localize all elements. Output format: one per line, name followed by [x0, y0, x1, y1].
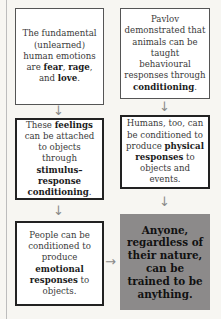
- text-run: .: [89, 187, 92, 197]
- emphasis-term: rage: [68, 62, 90, 72]
- emphasis-term: emotional responses: [30, 264, 84, 285]
- emphasis-term: feelings: [55, 120, 93, 130]
- box-emotional-responses: People can be conditioned to produce emo…: [15, 221, 104, 306]
- emphasis-term: stimulus–response conditioning: [28, 165, 89, 197]
- box-feelings-attached: These feelings can be attached to object…: [15, 118, 104, 200]
- box-text: The fundamental (unlearned) human emotio…: [19, 28, 100, 84]
- box-text: Humans, too, can be conditioned to produ…: [125, 118, 205, 185]
- arrow-down-icon: ↓: [159, 195, 170, 208]
- box-physical-responses: Humans, too, can be conditioned to produ…: [120, 115, 210, 189]
- box-text: Pavlov demonstrated that animals can be …: [124, 14, 206, 92]
- box-text: These feelings can be attached to object…: [20, 120, 99, 198]
- arrow-down-icon: ↓: [159, 100, 170, 113]
- text-run: .: [77, 73, 80, 83]
- text-run: People can be conditioned to produce: [28, 230, 91, 262]
- margin-rule-line: [6, 0, 7, 319]
- arrow-down-icon: ↓: [53, 204, 64, 217]
- arrow-down-icon: ↓: [53, 104, 64, 117]
- emphasis-term: love: [58, 73, 77, 83]
- box-conclusion: Anyone, regardless of their nature, can …: [120, 214, 210, 310]
- arrow-right-icon: →: [105, 255, 116, 268]
- emphasis-term: fear: [44, 62, 63, 72]
- text-run: These: [26, 120, 55, 130]
- box-text: People can be conditioned to produce emo…: [20, 230, 99, 297]
- box-pavlov: Pavlov demonstrated that animals can be …: [120, 8, 210, 99]
- conclusion-text: Anyone, regardless of their nature, can …: [123, 224, 207, 301]
- text-run: Pavlov demonstrated that animals can be …: [124, 14, 205, 80]
- emphasis-term: conditioning: [133, 82, 194, 92]
- box-fundamental-emotions: The fundamental (unlearned) human emotio…: [15, 8, 104, 105]
- text-run: can be attached to objects through: [25, 131, 95, 163]
- text-run: .: [194, 82, 197, 92]
